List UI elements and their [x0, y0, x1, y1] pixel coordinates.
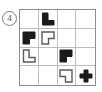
grid-cell-r3c1[interactable] [20, 48, 39, 67]
notched-square-br-icon [22, 31, 36, 45]
grid-cell-r3c4[interactable] [76, 48, 95, 67]
grid-cell-r1c4[interactable] [76, 10, 95, 29]
grid-cell-r2c1[interactable] [20, 29, 39, 48]
notched-square-br-icon [59, 49, 73, 63]
grid-cell-r4c2[interactable] [39, 66, 58, 85]
plus-icon [79, 69, 93, 83]
notched-square-br-icon [41, 31, 55, 45]
l-tetromino-icon [41, 12, 55, 26]
grid-cell-r1c2[interactable] [39, 10, 58, 29]
grid-cell-r2c3[interactable] [58, 29, 77, 48]
grid-cell-r3c3[interactable] [58, 48, 77, 67]
grid-cell-r2c2[interactable] [39, 29, 58, 48]
puzzle-grid [19, 9, 96, 86]
notched-square-bl-icon [59, 69, 73, 83]
item-number-text: 4 [7, 14, 12, 23]
grid-cell-r1c1[interactable] [20, 10, 39, 29]
grid-cell-r3c2[interactable] [39, 48, 58, 67]
grid-cell-r2c4[interactable] [76, 29, 95, 48]
grid-cell-r4c3[interactable] [58, 66, 77, 85]
grid-cell-r4c4[interactable] [76, 66, 95, 85]
puzzle-figure: 4 [0, 0, 102, 92]
grid-cell-r1c3[interactable] [58, 10, 77, 29]
grid-cell-r4c1[interactable] [20, 66, 39, 85]
item-number-badge: 4 [2, 11, 17, 26]
l-tetromino-icon [22, 49, 36, 63]
